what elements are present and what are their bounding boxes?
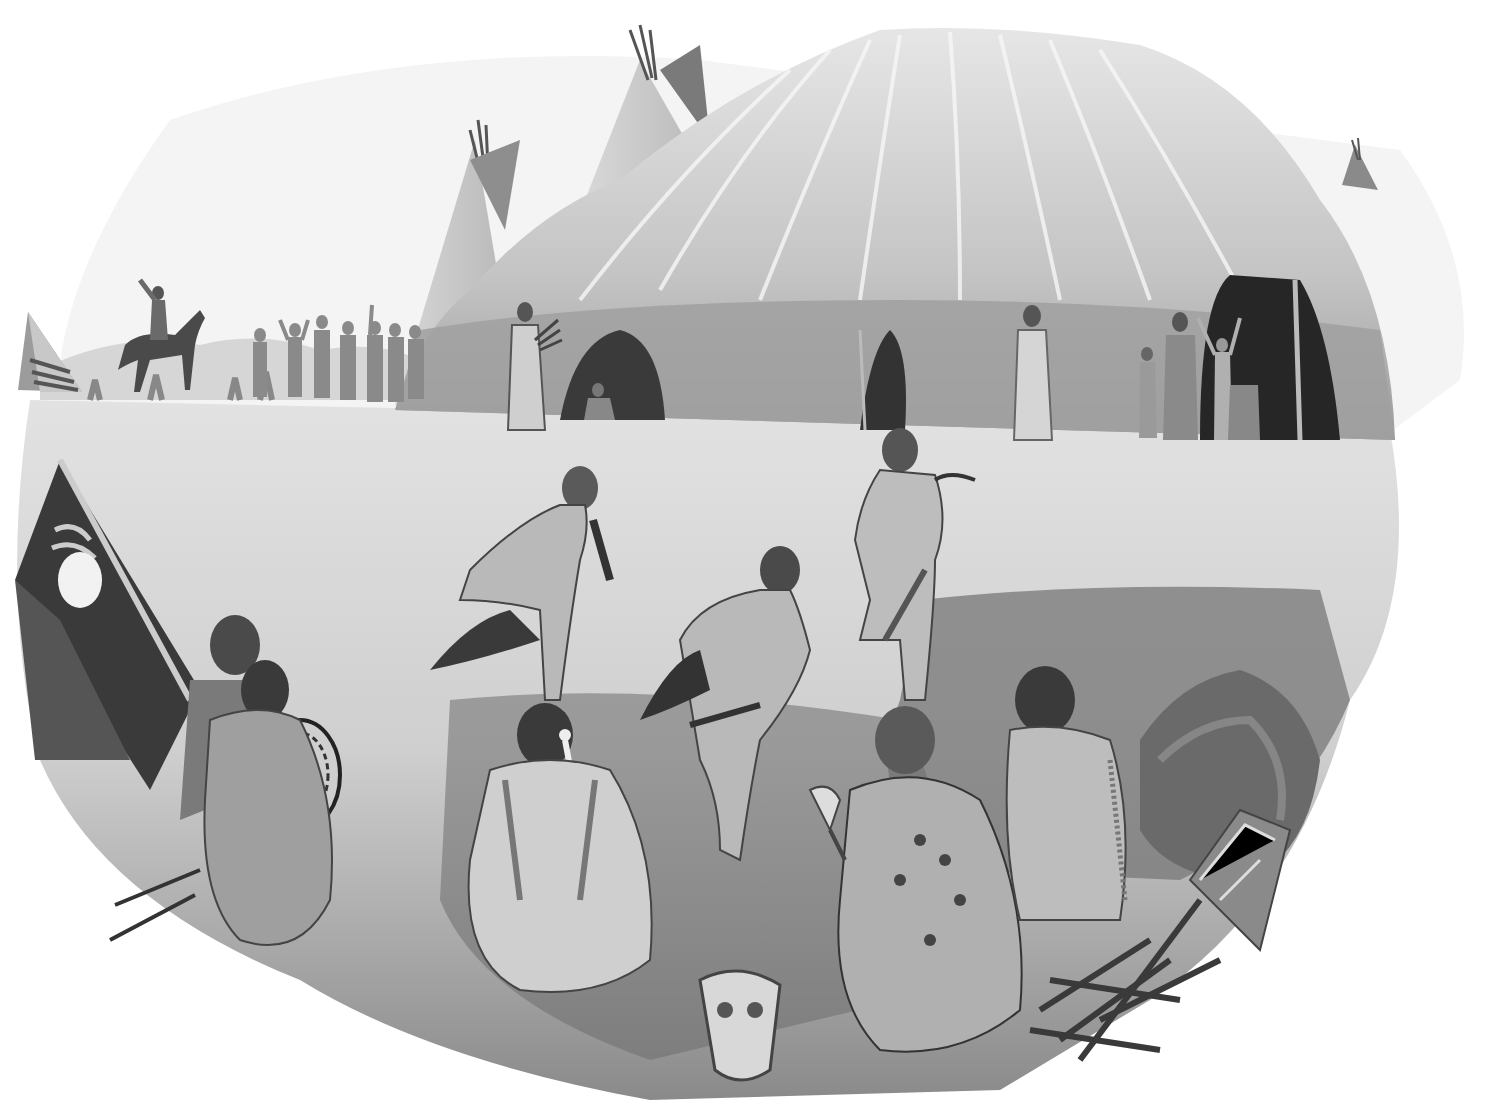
painted-scene bbox=[0, 0, 1498, 1109]
illustration-canvas bbox=[0, 0, 1498, 1109]
